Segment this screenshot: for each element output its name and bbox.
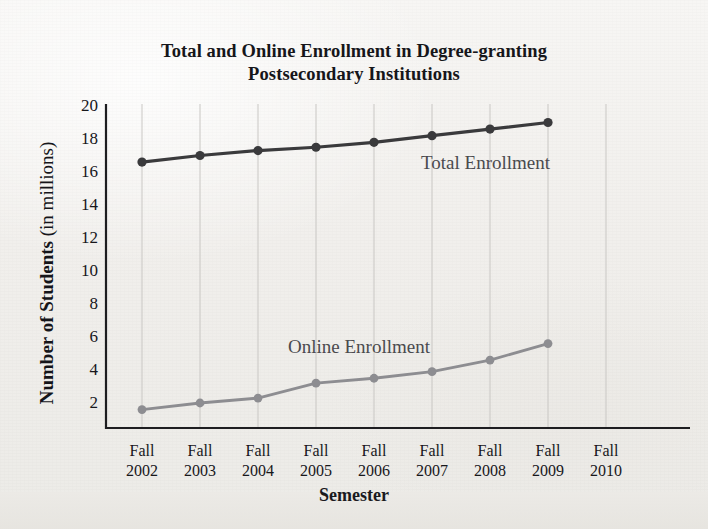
- data-point-0-0: [137, 158, 146, 167]
- data-point-0-6: [485, 125, 494, 134]
- data-point-1-1: [196, 399, 205, 408]
- data-point-0-5: [427, 131, 436, 140]
- data-point-1-7: [544, 339, 553, 348]
- data-point-0-7: [543, 118, 552, 127]
- enrollment-line-chart: Total and Online Enrollment in Degree-gr…: [0, 0, 708, 529]
- data-point-1-2: [254, 394, 263, 403]
- data-point-0-3: [311, 143, 320, 152]
- data-point-0-2: [253, 146, 262, 155]
- series-annotation-online-enrollment: Online Enrollment: [288, 336, 430, 358]
- data-point-1-4: [370, 374, 379, 383]
- data-point-0-1: [195, 151, 204, 160]
- data-point-0-4: [369, 138, 378, 147]
- x-axis-label: Semester: [0, 485, 708, 506]
- data-point-1-3: [312, 379, 321, 388]
- plot-area: [0, 0, 708, 529]
- data-point-1-5: [428, 367, 437, 376]
- data-point-1-6: [486, 356, 495, 365]
- series-annotation-total-enrollment: Total Enrollment: [421, 152, 550, 174]
- data-point-1-0: [138, 405, 147, 414]
